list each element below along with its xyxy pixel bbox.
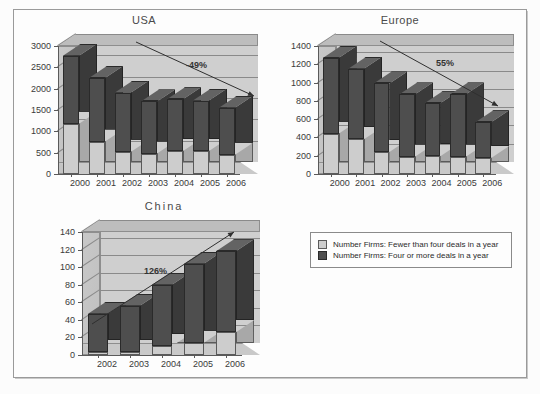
y-tick	[54, 110, 58, 111]
legend-label: Number Firms: Four or more deals in a ye…	[333, 251, 489, 260]
bar-segment	[216, 251, 236, 332]
legend-swatch-light-icon	[318, 240, 327, 249]
bar-column	[348, 34, 364, 174]
bar-segment	[152, 346, 172, 355]
bar-segment	[63, 56, 79, 124]
bar-column	[89, 34, 105, 174]
bar-segment	[425, 156, 441, 174]
bar-segment	[184, 343, 204, 355]
bar-segment	[167, 151, 183, 174]
bar-segment	[152, 285, 172, 347]
chart-title-europe: Europe	[276, 14, 524, 26]
bar-column	[115, 34, 131, 174]
x-tick	[458, 174, 459, 177]
y-tick	[78, 355, 82, 356]
figure-page: USA 050010001500200025003000200020012002…	[0, 0, 540, 394]
bar-segment	[374, 152, 390, 174]
y-tick-label: 1500	[31, 105, 51, 115]
bar-segment	[120, 306, 140, 353]
y-tick-label: 140	[60, 227, 75, 237]
y-axis	[58, 46, 59, 174]
y-tick	[78, 320, 82, 321]
y-tick	[78, 267, 82, 268]
figure-frame: USA 050010001500200025003000200020012002…	[13, 9, 527, 378]
bar-segment	[219, 155, 235, 174]
bar-column	[216, 220, 236, 355]
y-tick-label: 2000	[31, 84, 51, 94]
x-tick	[98, 355, 99, 358]
x-tick	[123, 174, 124, 177]
bar-segment	[88, 314, 108, 353]
x-tick	[201, 174, 202, 177]
y-tick-label: 800	[296, 96, 311, 106]
y-tick	[314, 119, 318, 120]
x-tick	[483, 174, 484, 177]
bar-segment	[115, 93, 131, 152]
legend-label: Number Firms: Fewer than four deals in a…	[333, 240, 498, 249]
x-tick-label: 2006	[215, 178, 257, 188]
y-tick	[314, 64, 318, 65]
bar-segment	[219, 108, 235, 155]
y-tick-label: 200	[296, 151, 311, 161]
bar-segment	[399, 94, 415, 156]
y-tick	[314, 83, 318, 84]
bar-segment	[141, 101, 157, 153]
y-tick	[314, 174, 318, 175]
y-tick-label: 0	[306, 169, 311, 179]
y-tick	[54, 89, 58, 90]
growth-percent-label: 55%	[436, 58, 454, 68]
y-tick	[314, 46, 318, 47]
y-tick	[78, 302, 82, 303]
x-tick	[149, 174, 150, 177]
y-tick	[314, 101, 318, 102]
plot-area-europe: 0200400600800100012001400200020012002200…	[318, 34, 514, 174]
bar-segment	[323, 134, 339, 174]
chart-panel-usa: USA 050010001500200025003000200020012002…	[18, 14, 270, 194]
y-tick-label: 1200	[291, 59, 311, 69]
x-tick	[71, 174, 72, 177]
y-tick-label: 120	[60, 245, 75, 255]
bar-segment	[348, 139, 364, 174]
x-tick	[382, 174, 383, 177]
x-tick	[356, 174, 357, 177]
x-tick	[130, 355, 131, 358]
bar-column	[323, 34, 339, 174]
y-tick-label: 1000	[291, 78, 311, 88]
y-tick-label: 60	[65, 297, 75, 307]
bar-column	[399, 34, 415, 174]
x-tick	[407, 174, 408, 177]
bar-segment	[63, 124, 79, 174]
bar-segment	[184, 264, 204, 343]
x-tick	[175, 174, 176, 177]
bar-segment	[216, 332, 236, 355]
plot-area-usa: 0500100015002000250030002000200120022003…	[58, 34, 258, 174]
y-tick-label: 20	[65, 332, 75, 342]
y-tick	[78, 250, 82, 251]
bar-segment	[374, 83, 390, 152]
y-tick	[78, 285, 82, 286]
bar-segment	[89, 142, 105, 174]
y-tick-label: 500	[36, 148, 51, 158]
bar-column	[425, 34, 441, 174]
y-tick-label: 3000	[31, 41, 51, 51]
y-tick-label: 40	[65, 315, 75, 325]
y-tick	[54, 153, 58, 154]
bar-segment	[399, 157, 415, 174]
chart-panel-china: China 0204060801001201402002200320042005…	[40, 200, 288, 375]
y-tick-label: 400	[296, 132, 311, 142]
x-tick	[162, 355, 163, 358]
bar-segment	[193, 151, 209, 174]
x-tick	[432, 174, 433, 177]
y-tick	[314, 137, 318, 138]
bar-segment	[425, 103, 441, 156]
bar-column	[184, 220, 204, 355]
y-tick	[54, 131, 58, 132]
bar-segment	[115, 152, 131, 174]
chart-panel-europe: Europe 020040060080010001200140020002001…	[276, 14, 524, 194]
y-axis	[82, 232, 83, 355]
bar-segment	[450, 157, 466, 174]
bar-segment	[323, 58, 339, 134]
x-tick	[194, 355, 195, 358]
x-tick-label: 2006	[471, 178, 513, 188]
y-tick	[78, 337, 82, 338]
